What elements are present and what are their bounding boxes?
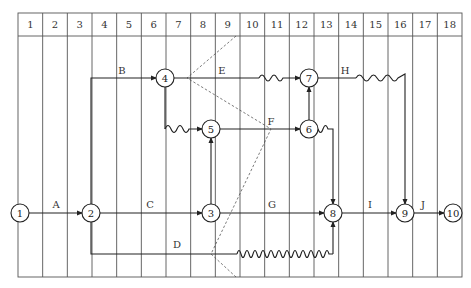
activity-label-d: D [173,239,181,250]
node-2: 2 [82,204,100,222]
event-nodes: 12345678910 [11,69,462,222]
svg-text:7: 7 [306,73,312,84]
column-header: 12 [295,19,308,30]
svg-text:6: 6 [306,124,312,135]
diagram-canvas: 123456789101112131415161718 [0,0,471,288]
node-6: 6 [300,120,318,138]
column-header: 2 [52,19,58,30]
column-header-row: 123456789101112131415161718 [27,19,456,30]
svg-text:1: 1 [17,208,23,219]
column-header: 13 [320,19,333,30]
column-header: 4 [101,19,107,30]
svg-text:2: 2 [88,208,94,219]
network-diagram: 123456789101112131415161718 [0,0,471,288]
node-9: 9 [396,204,414,222]
column-header: 15 [369,19,382,30]
node-4: 4 [156,69,174,87]
activity-label-j: J [420,199,425,210]
column-header: 11 [271,19,284,30]
activity-label-b: B [118,65,125,76]
activity-label-h: H [341,65,350,76]
activity-label-i: I [368,199,372,210]
wave-4-5 [165,126,202,133]
wave-e [259,75,300,81]
column-header: 8 [200,19,206,30]
activity-label-c: C [146,199,154,210]
arrow-b [91,78,156,204]
activity-labels: ABCDEFGHIJ [51,65,425,250]
wave-6-8 [318,126,333,205]
activity-arrows [29,74,444,258]
column-header: 1 [27,19,33,30]
node-5: 5 [202,120,220,138]
svg-text:10: 10 [447,208,460,219]
wave-d [237,251,333,258]
activity-label-f: F [268,116,275,127]
svg-text:3: 3 [208,208,214,219]
activity-label-e: E [218,65,225,76]
column-header: 16 [394,19,407,30]
activity-label-g: G [268,199,276,210]
column-header: 17 [419,19,432,30]
check-frontline [187,36,271,277]
node-8: 8 [324,204,342,222]
column-header: 6 [150,19,156,30]
column-header: 10 [246,19,259,30]
svg-text:9: 9 [402,208,408,219]
svg-text:5: 5 [208,124,214,135]
time-grid [18,13,462,277]
activity-label-a: A [51,199,60,210]
node-10: 10 [444,204,462,222]
svg-text:4: 4 [162,73,168,84]
column-header: 9 [224,19,230,30]
column-header: 3 [76,19,82,30]
column-header: 18 [443,19,456,30]
node-7: 7 [300,69,318,87]
svg-text:8: 8 [330,208,336,219]
node-1: 1 [11,204,29,222]
column-header: 14 [345,19,358,30]
column-header: 5 [126,19,132,30]
node-3: 3 [202,204,220,222]
column-header: 7 [175,19,181,30]
